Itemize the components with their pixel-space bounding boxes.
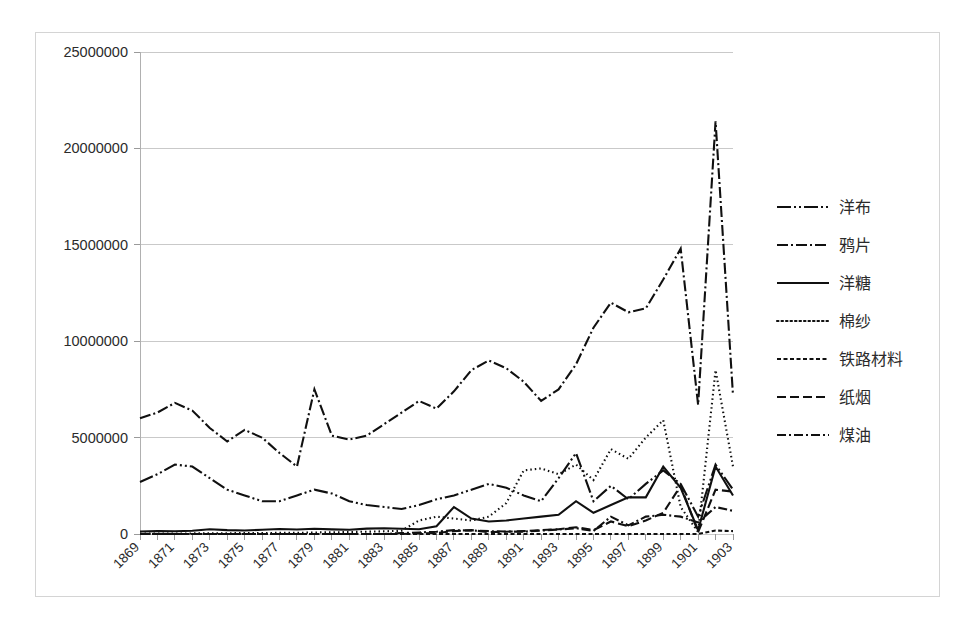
series-line-0 xyxy=(140,453,733,517)
legend-item-0[interactable]: 洋布 xyxy=(777,199,871,216)
y-axis-tick-label: 0 xyxy=(120,526,128,542)
y-axis-tick-label: 25000000 xyxy=(63,44,128,60)
gridlines xyxy=(140,52,733,534)
legend-label-0: 洋布 xyxy=(839,199,871,216)
legend-item-6[interactable]: 煤油 xyxy=(777,427,871,444)
legend-label-6: 煤油 xyxy=(839,427,871,444)
x-axis-tick-label: 1873 xyxy=(180,540,212,572)
x-axis-tick-label: 1871 xyxy=(145,540,177,572)
x-axis-tick-label: 1895 xyxy=(564,540,596,572)
x-axis-tick-label: 1891 xyxy=(494,540,526,572)
x-axis-tick-label: 1903 xyxy=(703,540,735,572)
x-axis-tick-label: 1901 xyxy=(668,540,700,572)
legend-label-5: 纸烟 xyxy=(839,389,871,406)
x-axis-tick-label: 1883 xyxy=(354,540,386,572)
legend-item-5[interactable]: 纸烟 xyxy=(777,389,871,406)
x-axis-tick-label: 1877 xyxy=(250,540,282,572)
x-axis-tick-label: 1879 xyxy=(285,540,317,572)
y-axis-tick-label: 20000000 xyxy=(63,140,128,156)
x-axis-tick-label: 1893 xyxy=(529,540,561,572)
chart-legend: 洋布鸦片洋糖棉纱铁路材料纸烟煤油 xyxy=(777,199,903,444)
x-axis-tick-label: 1881 xyxy=(320,540,352,572)
x-axis-tick-label: 1875 xyxy=(215,540,247,572)
legend-item-2[interactable]: 洋糖 xyxy=(777,275,871,292)
legend-label-4: 铁路材料 xyxy=(839,351,903,368)
legend-label-1: 鸦片 xyxy=(839,237,871,254)
x-axis-tick-label: 1885 xyxy=(389,540,421,572)
y-axis-tick-label: 10000000 xyxy=(63,333,128,349)
x-axis-tick-label: 1899 xyxy=(634,540,666,572)
legend-item-3[interactable]: 棉纱 xyxy=(777,313,871,330)
y-axis-tick-label: 5000000 xyxy=(72,430,128,446)
legend-label-3: 棉纱 xyxy=(839,313,871,330)
x-axis-tick-label: 1887 xyxy=(424,540,456,572)
legend-label-2: 洋糖 xyxy=(839,275,871,292)
axis-tick-marks xyxy=(134,52,733,540)
x-axis-tick-labels: 1869187118731875187718791881188318851887… xyxy=(110,540,735,572)
x-axis-tick-label: 1897 xyxy=(599,540,631,572)
y-axis-tick-labels: 0500000010000000150000002000000025000000 xyxy=(63,44,128,542)
legend-item-1[interactable]: 鸦片 xyxy=(777,237,871,254)
series-line-1 xyxy=(140,121,733,466)
x-axis-tick-label: 1889 xyxy=(459,540,491,572)
y-axis-tick-label: 15000000 xyxy=(63,237,128,253)
data-series xyxy=(140,121,733,534)
legend-item-4[interactable]: 铁路材料 xyxy=(777,351,903,368)
line-chart: 0500000010000000150000002000000025000000… xyxy=(0,0,953,629)
x-axis-tick-label: 1869 xyxy=(110,540,142,572)
series-line-3 xyxy=(140,370,733,533)
